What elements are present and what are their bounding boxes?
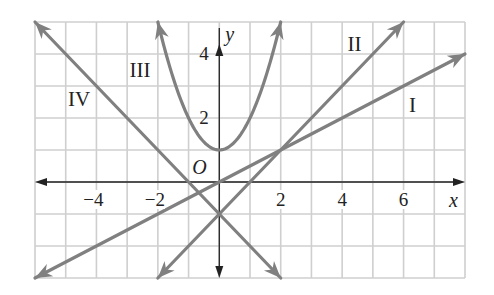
y-axis-label: y [225,24,234,44]
x-axis-label: x [449,190,458,210]
y-axis-arrow-up-icon [215,44,223,56]
x-tick-label: 2 [276,190,286,209]
x-tick-label: −4 [83,190,103,209]
x-tick-label: −2 [145,190,165,209]
x-tick-label: 4 [337,190,347,209]
curve-label-i: I [409,95,416,116]
x-tick-label: 6 [399,190,409,209]
grid [35,22,465,278]
origin-label: O [192,157,206,177]
x-axis-arrow-right-icon [453,178,465,186]
coordinate-plane [0,0,494,295]
y-axis-arrow-down-icon [215,266,223,278]
x-axis-arrow-left-icon [35,178,47,186]
curve-label-iii: III [129,60,150,81]
curve-label-iv: IV [68,89,90,110]
y-tick-label: 2 [199,108,209,127]
curve-label-ii: II [348,34,362,55]
y-tick-label: 4 [199,44,209,63]
